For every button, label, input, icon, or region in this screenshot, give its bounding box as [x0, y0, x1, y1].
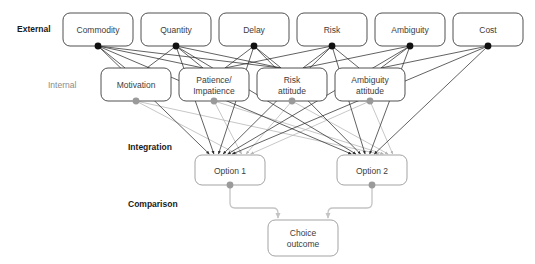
tier-labels: ExternalInternalIntegrationComparison [17, 24, 178, 209]
node-label-ambiguity_attitude: Ambiguity [351, 75, 389, 85]
connector-dot-motivation [133, 98, 140, 105]
decision-model-diagram: CommodityQuantityDelayRiskAmbiguityCostM… [0, 0, 535, 264]
node-delay: Delay [219, 13, 289, 46]
connector-dot-delay [251, 43, 258, 50]
diagram-canvas: CommodityQuantityDelayRiskAmbiguityCostM… [0, 0, 535, 264]
node-cost: Cost [453, 13, 523, 46]
node-label-commodity: Commodity [77, 25, 121, 35]
node-label-motivation: Motivation [117, 80, 156, 90]
node-label2-patience: Impatience [193, 86, 235, 96]
connector-dot-option1 [227, 182, 234, 189]
node-label-delay: Delay [243, 25, 265, 35]
node-ambiguity: Ambiguity [375, 13, 445, 46]
node-boxes: CommodityQuantityDelayRiskAmbiguityCostM… [63, 13, 523, 256]
node-option1: Option 1 [195, 155, 265, 185]
node-box-risk_attitude [257, 68, 327, 101]
edge-patience-to-option1 [214, 101, 242, 154]
tier-label-internal: Internal [48, 80, 76, 90]
node-option2: Option 2 [337, 155, 407, 185]
edge-patience-to-option2 [214, 101, 384, 154]
connector-dot-option2 [369, 182, 376, 189]
node-label-choice_outcome: Choice [290, 228, 317, 238]
node-label2-ambiguity_attitude: attitude [356, 86, 384, 96]
edges-external-to-internal [98, 46, 488, 68]
node-label-cost: Cost [479, 25, 497, 35]
node-label2-choice_outcome: outcome [287, 239, 320, 249]
node-label-option1: Option 1 [214, 166, 246, 176]
edge-ambiguity-to-risk_attitude [303, 46, 410, 68]
connector-dot-quantity [173, 43, 180, 50]
node-box-patience [179, 68, 249, 101]
node-label-option2: Option 2 [356, 166, 388, 176]
edge-option2-to-choice_outcome [328, 185, 372, 218]
tier-label-comparison: Comparison [128, 199, 178, 209]
connector-dot-cost [485, 43, 492, 50]
edge-commodity-to-motivation [98, 46, 125, 68]
node-motivation: Motivation [101, 68, 171, 101]
node-label2-risk_attitude: attitude [278, 86, 306, 96]
connector-dot-ambiguity [407, 43, 414, 50]
node-commodity: Commodity [63, 13, 133, 46]
tier-label-integration: Integration [128, 142, 172, 152]
edge-cost-to-ambiguity_attitude [381, 46, 488, 68]
connector-dot-risk_attitude [289, 98, 296, 105]
node-choice_outcome: Choiceoutcome [268, 220, 338, 256]
node-box-choice_outcome [268, 220, 338, 256]
connector-dot-patience [211, 98, 218, 105]
edges-options-to-choice [230, 185, 372, 218]
edge-risk-to-patience [225, 46, 332, 68]
edge-option1-to-choice_outcome [230, 185, 278, 218]
connector-dot-commodity [95, 43, 102, 50]
node-risk: Risk [297, 13, 367, 46]
node-label-ambiguity: Ambiguity [391, 25, 429, 35]
node-risk_attitude: Riskattitude [257, 68, 327, 101]
node-box-ambiguity_attitude [335, 68, 405, 101]
node-label-quantity: Quantity [160, 25, 192, 35]
node-label-risk_attitude: Risk [284, 75, 301, 85]
node-label-patience: Patience/ [196, 75, 232, 85]
node-quantity: Quantity [141, 13, 211, 46]
tier-label-external: External [17, 24, 51, 34]
connector-dot-risk [329, 43, 336, 50]
node-ambiguity_attitude: Ambiguityattitude [335, 68, 405, 101]
node-patience: Patience/Impatience [179, 68, 249, 101]
node-label-risk: Risk [324, 25, 341, 35]
connector-dot-ambiguity_attitude [367, 98, 374, 105]
edges-internal-to-options [136, 101, 393, 154]
